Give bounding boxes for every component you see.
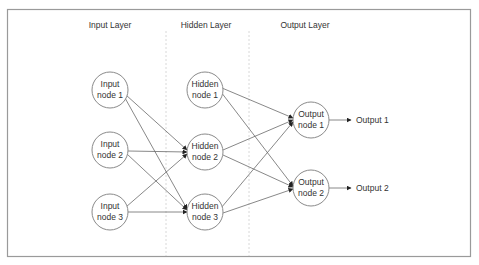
node-label-line2: node 1 [97, 90, 123, 100]
node-label-line1: Hidden [192, 141, 219, 151]
output-node-2: Output node 2 [293, 170, 329, 206]
node-label-line2: node 3 [192, 212, 218, 222]
output-node-1: Output node 1 [293, 102, 329, 138]
diagram-frame [8, 10, 471, 257]
output-1-label: Output 1 [356, 115, 389, 125]
node-label-line1: Hidden [192, 201, 219, 211]
hidden-node-3: Hidden node 3 [187, 194, 223, 230]
hidden-layer-label: Hidden Layer [181, 20, 232, 30]
node-label-line2: node 1 [192, 90, 218, 100]
node-label-line2: node 3 [97, 212, 123, 222]
node-label-line1: Hidden [192, 79, 219, 89]
hidden-node-1: Hidden node 1 [187, 72, 223, 108]
node-label-line2: node 2 [298, 188, 324, 198]
hidden-node-2: Hidden node 2 [187, 134, 223, 170]
node-label-line2: node 1 [298, 120, 324, 130]
node-label-line2: node 2 [192, 152, 218, 162]
input-layer-label: Input Layer [89, 20, 132, 30]
node-label-line1: Input [101, 139, 121, 149]
node-label-line2: node 2 [97, 150, 123, 160]
output-layer-label: Output Layer [280, 20, 329, 30]
node-label-line1: Output [298, 177, 324, 187]
neural-network-diagram: Input Layer Hidden Layer Output Layer In… [0, 0, 479, 265]
output-2-label: Output 2 [356, 183, 389, 193]
node-label-line1: Output [298, 109, 324, 119]
node-label-line1: Input [101, 201, 121, 211]
input-node-2: Input node 2 [92, 132, 128, 168]
node-label-line1: Input [101, 79, 121, 89]
input-node-3: Input node 3 [92, 194, 128, 230]
input-node-1: Input node 1 [92, 72, 128, 108]
